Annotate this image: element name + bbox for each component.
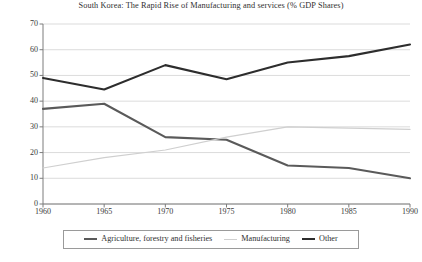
legend-item[interactable]: Agriculture, forestry and fisheries — [84, 235, 212, 243]
gridlines — [43, 24, 410, 204]
legend-label: Agriculture, forestry and fisheries — [101, 235, 212, 243]
y-tick-label: 50 — [12, 71, 38, 79]
y-tick-label: 70 — [12, 20, 38, 28]
axis-spines — [43, 24, 410, 204]
x-tick-label: 1980 — [268, 208, 308, 216]
legend-swatch-icon — [84, 238, 97, 240]
legend-label: Manufacturing — [241, 235, 290, 243]
series-lines — [43, 45, 410, 179]
x-tick-label: 1970 — [145, 208, 185, 216]
x-tick-label: 1965 — [84, 208, 124, 216]
legend-label: Other — [319, 235, 338, 243]
legend-item[interactable]: Manufacturing — [224, 235, 290, 243]
series-line — [43, 104, 410, 179]
series-line — [43, 45, 410, 90]
series-line — [43, 127, 410, 168]
x-tick-label: 1960 — [23, 208, 63, 216]
legend-swatch-icon — [224, 239, 237, 240]
y-tick-label: 10 — [12, 174, 38, 182]
legend-item[interactable]: Other — [302, 235, 338, 243]
chart-title: South Korea: The Rapid Rise of Manufactu… — [0, 1, 422, 10]
x-tick-label: 1975 — [207, 208, 247, 216]
x-tick-label: 1985 — [329, 208, 369, 216]
y-tick-label: 20 — [12, 149, 38, 157]
y-tick-label: 40 — [12, 97, 38, 105]
chart-container: South Korea: The Rapid Rise of Manufactu… — [0, 0, 422, 262]
axis-tick-marks — [40, 24, 411, 208]
y-tick-label: 60 — [12, 46, 38, 54]
y-tick-label: 30 — [12, 123, 38, 131]
legend: Agriculture, forestry and fisheriesManuf… — [63, 230, 359, 249]
plot-area — [43, 24, 410, 204]
x-tick-label: 1990 — [390, 208, 422, 216]
plot-svg — [43, 24, 410, 204]
legend-swatch-icon — [302, 238, 315, 240]
